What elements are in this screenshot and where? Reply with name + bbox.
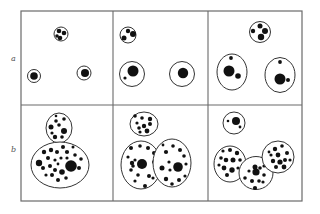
- nucleus-dot: [177, 178, 181, 182]
- nucleus-dot: [258, 166, 262, 170]
- nucleus-dot: [148, 122, 152, 126]
- nucleus-dot: [46, 156, 50, 160]
- cell: [217, 54, 247, 90]
- nucleus-dot: [122, 36, 127, 41]
- cell: [46, 113, 72, 143]
- nucleus-dot: [251, 29, 255, 33]
- nucleus-dot: [54, 119, 58, 123]
- nucleus-dot: [79, 157, 83, 161]
- nucleus-dot: [57, 163, 60, 166]
- nucleus-dot: [219, 156, 223, 160]
- nucleus-dot: [36, 160, 42, 166]
- cell: [54, 27, 68, 41]
- nucleus-dot: [57, 29, 62, 34]
- nucleus-dot: [225, 173, 229, 177]
- nucleus-dot: [286, 78, 290, 82]
- nucleus-dot: [50, 131, 53, 134]
- nucleus-dot: [273, 147, 277, 151]
- nucleus-dot: [228, 148, 232, 152]
- nucleus-dot: [224, 158, 229, 163]
- nucleus-dot: [44, 173, 47, 176]
- nucleus-dot: [277, 159, 282, 164]
- nucleus-dot: [135, 121, 138, 124]
- nucleus-dot: [232, 117, 240, 125]
- nucleus-dot: [178, 68, 188, 78]
- nucleus-dot: [53, 158, 56, 161]
- cell: [262, 141, 294, 173]
- nucleus-dot: [48, 164, 52, 168]
- nucleus-dot: [262, 173, 266, 177]
- nucleus-dot: [182, 154, 186, 158]
- nucleus-dot: [280, 144, 284, 148]
- nucleus-dot: [59, 169, 65, 175]
- nucleus-dot: [136, 173, 140, 177]
- nucleus-dot: [243, 176, 247, 180]
- nucleus-dot: [160, 166, 165, 171]
- nucleus-dot: [55, 34, 59, 38]
- cell: [250, 22, 271, 43]
- nucleus-dot: [271, 159, 275, 163]
- nucleus-dot: [126, 155, 129, 158]
- nucleus-dot: [184, 162, 187, 165]
- panel-a2: [120, 27, 195, 87]
- nucleus-dot: [253, 186, 257, 190]
- nucleus-dot: [147, 174, 151, 178]
- nucleus-dot: [178, 148, 182, 152]
- panel-a1: [28, 27, 92, 83]
- nucleus-dot: [269, 153, 272, 156]
- nucleus-dot: [261, 180, 264, 183]
- nucleus-dot: [57, 123, 61, 127]
- nucleus-dot: [61, 128, 67, 134]
- nucleus-dot: [227, 120, 230, 123]
- nucleus-dot: [61, 145, 65, 149]
- nucleus-dot: [55, 115, 58, 118]
- nucleus-dot: [217, 163, 220, 166]
- nucleus-dot: [53, 135, 57, 139]
- nucleus-dot: [72, 146, 75, 149]
- nucleus-dot: [183, 174, 186, 177]
- nucleus-dot: [65, 150, 69, 154]
- nucleus-dot: [140, 116, 144, 120]
- nucleus-dot: [41, 166, 45, 170]
- nucleus-dot: [77, 166, 81, 170]
- cell: [130, 112, 158, 136]
- nucleus-dot: [247, 169, 250, 172]
- nucleus-dot: [148, 117, 152, 121]
- nucleus-dot: [250, 179, 254, 183]
- nucleus-dot: [164, 150, 168, 154]
- nucleus-dot: [138, 130, 141, 133]
- nucleus-dot: [231, 158, 236, 163]
- nucleus-dot: [275, 74, 286, 85]
- cell: [31, 142, 89, 188]
- nucleus-dot: [129, 168, 133, 172]
- nucleus-dot: [73, 153, 77, 157]
- nucleus-dot: [53, 168, 57, 172]
- nucleus-dot: [239, 126, 242, 129]
- nucleus-dot: [30, 72, 38, 80]
- nucleus-dot: [126, 29, 130, 33]
- nucleus-dot: [131, 164, 135, 168]
- cell: [153, 139, 191, 187]
- nucleus-dot: [133, 114, 137, 118]
- cell: [120, 62, 145, 87]
- nucleus-dot: [276, 153, 281, 158]
- nucleus-dot: [222, 166, 227, 171]
- nucleus-dot: [143, 184, 147, 188]
- nucleus-dot: [252, 168, 259, 175]
- nucleus-dot: [171, 144, 175, 148]
- nucleus-dot: [167, 160, 170, 163]
- nucleus-dot: [238, 158, 242, 162]
- nucleus-dot: [142, 124, 146, 128]
- cell: [77, 66, 91, 80]
- nucleus-dot: [42, 150, 46, 154]
- nucleus-dot: [62, 31, 67, 36]
- cell: [265, 58, 295, 93]
- nucleus-dot: [65, 156, 68, 159]
- nucleus-dot: [130, 31, 136, 37]
- nucleus-dot: [128, 66, 139, 77]
- nucleus-dot: [49, 125, 54, 130]
- nucleus-dot: [133, 179, 136, 182]
- nucleus-dot: [262, 28, 268, 34]
- nucleus-dot: [221, 149, 224, 152]
- panel-b2: [121, 112, 191, 189]
